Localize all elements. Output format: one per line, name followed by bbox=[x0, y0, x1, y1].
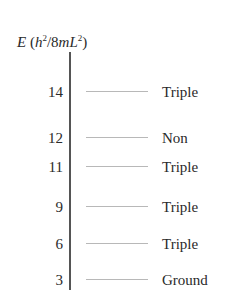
level-line bbox=[86, 166, 148, 167]
energy-level-row: 14Triple bbox=[0, 82, 234, 102]
level-label: Triple bbox=[162, 157, 198, 177]
energy-level-row: 9Triple bbox=[0, 197, 234, 217]
level-label: Ground bbox=[162, 270, 208, 290]
energy-axis-title: E (h2/8mL2) bbox=[17, 33, 87, 51]
unit-mid: /8mL bbox=[47, 34, 78, 50]
level-label: Non bbox=[162, 128, 188, 148]
energy-level-row: 12Non bbox=[0, 128, 234, 148]
energy-level-row: 3Ground bbox=[0, 270, 234, 290]
energy-level-row: 6Triple bbox=[0, 234, 234, 254]
unit-suffix: ) bbox=[82, 34, 87, 50]
energy-value: 11 bbox=[49, 157, 63, 177]
energy-value: 12 bbox=[48, 128, 63, 148]
level-line bbox=[86, 243, 148, 244]
energy-value: 6 bbox=[56, 234, 64, 254]
level-line bbox=[86, 137, 148, 138]
level-line bbox=[86, 279, 148, 280]
level-label: Triple bbox=[162, 82, 198, 102]
level-line bbox=[86, 91, 148, 92]
level-line bbox=[86, 206, 148, 207]
energy-level-row: 11Triple bbox=[0, 157, 234, 177]
energy-symbol: E bbox=[17, 34, 26, 50]
level-label: Triple bbox=[162, 234, 198, 254]
energy-value: 14 bbox=[48, 82, 63, 102]
unit-prefix: (h bbox=[30, 34, 43, 50]
energy-value: 9 bbox=[56, 197, 64, 217]
energy-value: 3 bbox=[56, 270, 64, 290]
level-label: Triple bbox=[162, 197, 198, 217]
